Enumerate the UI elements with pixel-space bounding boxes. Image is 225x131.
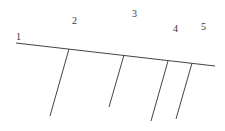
branch-line-2 bbox=[109, 55, 124, 107]
branch-line-4 bbox=[176, 63, 192, 119]
diagram-canvas: 1 2 3 4 5 bbox=[0, 0, 225, 131]
main-line bbox=[16, 43, 215, 66]
branch-line-1 bbox=[50, 49, 69, 116]
labels: 1 2 3 4 5 bbox=[16, 8, 206, 42]
branches bbox=[50, 49, 192, 121]
branch-line-3 bbox=[151, 61, 168, 121]
label-4: 4 bbox=[173, 23, 178, 34]
label-3: 3 bbox=[132, 8, 137, 19]
label-5: 5 bbox=[201, 21, 206, 32]
label-2: 2 bbox=[72, 15, 77, 26]
label-1: 1 bbox=[16, 31, 21, 42]
